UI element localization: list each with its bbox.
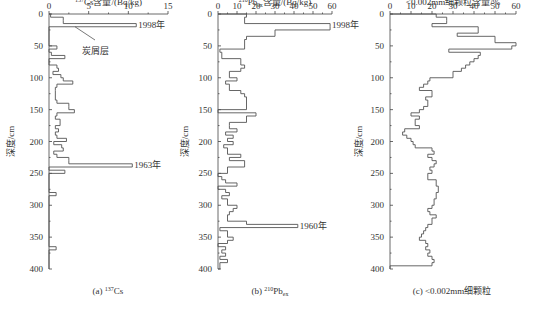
title-sup: 137 [75,0,84,3]
x-tick-label: 0 [47,1,52,11]
y-axis-label: 深度/cm [353,126,364,158]
y-tick-label: 150 [30,105,44,115]
y-tick-label: 0 [39,9,44,19]
annotation-leader-line [75,27,95,40]
panel-c-fine-particles: 0102030405060050100150200250300350400深度/… [353,0,521,296]
caption-main: Cs [114,286,124,296]
y-tick-label: 250 [30,168,44,178]
y-tick-label: 300 [199,200,213,210]
y-tick-label: 200 [371,137,385,147]
title-tail: 含量/(Bq/kg) [263,0,312,7]
caption-prefix: (b) [252,286,265,296]
depth-profile-figure: 051015050100150200250300350400深度/cm137Cs… [0,0,543,309]
annotation-label: 1998年 [332,19,359,30]
y-tick-label: 200 [199,137,213,147]
y-tick-label: 350 [30,232,44,242]
annotation-label: 1960年 [300,220,327,231]
y-tick-label: 50 [203,41,213,51]
y-tick-label: 150 [199,105,213,115]
x-tick-label: 60 [512,1,522,11]
annotation-label: 炭屑层 [82,46,109,56]
y-tick-label: 100 [199,73,213,83]
x-tick-label: 0 [216,1,221,11]
x-tick-label: 60 [328,1,338,11]
caption-sub: ex [283,291,289,297]
caption-main: Pb [273,286,283,296]
title-sup: 210 [239,0,248,3]
panel-a-cs137: 051015050100150200250300350400深度/cm137Cs… [5,0,173,296]
title-main: Pb [248,0,258,7]
x-axis-title: 137Cs含量/(Bq/kg) [75,0,142,7]
title-main: <0.002mm细颗粒含量/% [406,0,501,7]
panel-caption: (b) 210Pbex [252,286,289,297]
caption-sup: 210 [264,286,273,292]
y-tick-label: 200 [30,137,44,147]
panel-b-pb210ex: 0102030405060050100150200250300350400深度/… [179,0,359,297]
x-axis-title: <0.002mm细颗粒含量/% [406,0,501,7]
y-tick-label: 150 [371,105,385,115]
title-main: Cs含量/(Bq/kg) [84,0,142,7]
y-tick-label: 400 [199,264,213,274]
caption-main: <0.002mm细颗粒 [425,285,491,296]
x-axis-title: 210Pbex含量/(Bq/kg) [239,0,312,8]
y-tick-label: 100 [30,73,44,83]
caption-prefix: (c) [413,286,425,296]
y-tick-label: 300 [371,200,385,210]
y-tick-label: 50 [34,41,44,51]
panel-caption: (a) 137Cs [93,286,124,296]
y-tick-label: 0 [208,9,213,19]
y-tick-label: 250 [371,168,385,178]
y-tick-label: 100 [371,73,385,83]
y-tick-label: 50 [375,41,385,51]
annotation-label: 1963年 [134,159,161,170]
annotation-label: 1998年 [138,19,165,30]
caption-prefix: (a) [93,286,105,296]
caption-sup: 137 [105,286,114,292]
y-tick-label: 0 [380,9,385,19]
y-tick-label: 250 [199,168,213,178]
x-tick-label: 15 [164,1,174,11]
y-tick-label: 350 [371,232,385,242]
y-tick-label: 400 [30,264,44,274]
panel-caption: (c) <0.002mm细颗粒 [413,285,492,296]
y-tick-label: 350 [199,232,213,242]
y-tick-label: 400 [371,264,385,274]
y-axis-label: 深度/cm [5,126,16,158]
y-tick-label: 300 [30,200,44,210]
depth-profile-series [390,14,516,269]
x-tick-label: 0 [388,1,393,11]
y-axis-label: 深度/cm [179,126,190,158]
